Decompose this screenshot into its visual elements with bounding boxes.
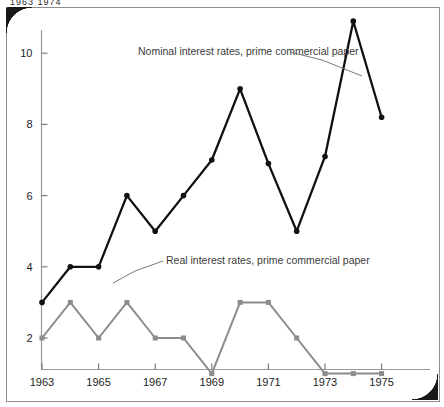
series-line — [42, 302, 382, 373]
chart-axes: 2468101963196519671969197119731975 — [20, 30, 430, 388]
data-point — [351, 18, 357, 24]
data-point — [152, 228, 158, 234]
chart-annotations: Nominal interest rates, prime commercial… — [113, 45, 370, 283]
data-point — [209, 371, 214, 376]
data-point — [68, 264, 74, 270]
data-point — [266, 300, 271, 305]
y-axis-tick-label: 6 — [26, 190, 32, 202]
data-point — [96, 264, 102, 270]
data-point — [323, 371, 328, 376]
data-point — [294, 336, 299, 341]
data-point — [68, 300, 73, 305]
data-point — [379, 371, 384, 376]
data-point — [124, 300, 129, 305]
y-axis-tick-label: 4 — [26, 261, 32, 273]
data-point — [238, 300, 243, 305]
x-axis-tick-label: 1975 — [369, 376, 393, 388]
x-axis-tick-label: 1971 — [256, 376, 280, 388]
data-point — [294, 228, 300, 234]
data-point — [181, 193, 187, 199]
data-point — [266, 161, 272, 167]
series-annotation-label: Real interest rates, prime commercial pa… — [166, 254, 370, 266]
series-annotation-leader-line — [113, 261, 163, 283]
data-point — [237, 86, 243, 92]
data-point — [96, 336, 101, 341]
data-point — [39, 300, 45, 306]
data-point — [181, 336, 186, 341]
x-axis-tick-label: 1965 — [86, 376, 110, 388]
data-point — [153, 336, 158, 341]
interest-rates-line-chart: 2468101963196519671969197119731975 Nomin… — [0, 0, 444, 407]
series-annotation-label: Nominal interest rates, prime commercial… — [138, 45, 359, 57]
x-axis-tick-label: 1969 — [200, 376, 224, 388]
y-axis-tick-label: 2 — [26, 332, 32, 344]
x-axis-tick-label: 1963 — [30, 376, 54, 388]
x-axis-tick-label: 1973 — [313, 376, 337, 388]
data-point — [322, 154, 328, 160]
data-point — [40, 336, 45, 341]
x-axis-tick-label: 1967 — [143, 376, 167, 388]
chart-series — [39, 18, 384, 376]
y-axis-tick-label: 8 — [26, 118, 32, 130]
data-point — [124, 193, 130, 199]
chart-page: 1963 1974 246810196319651967196919711973… — [0, 0, 444, 407]
data-point — [379, 114, 385, 120]
y-axis-tick-label: 10 — [20, 47, 32, 59]
data-point — [209, 157, 215, 163]
data-point — [351, 371, 356, 376]
